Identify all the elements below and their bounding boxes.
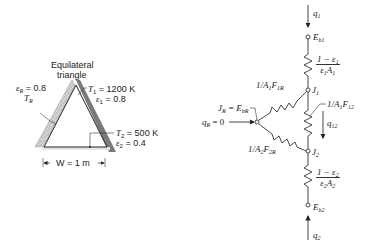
resistor-surface-1 (304, 54, 312, 76)
label-J2: J2 (312, 147, 319, 157)
label-J1: J1 (312, 85, 319, 95)
label-R1: 1 − ε1 ε1A1 (316, 54, 340, 75)
node-Eb2 (306, 203, 310, 207)
resistor-F2R (272, 134, 297, 147)
label-R12: 1/A1F12 (327, 99, 354, 109)
node-JR (255, 120, 259, 124)
label-R2R: 1/A2F2R (248, 144, 276, 154)
label-eps2: ε2 = 0.4 (116, 138, 146, 148)
label-JR: JR = EbR (218, 103, 248, 113)
label-R1R: 1/A1F1R (256, 80, 284, 90)
node-Eb1 (306, 35, 310, 39)
label-q1: q1 (313, 8, 321, 18)
resistor-surface-2 (304, 165, 312, 187)
label-Eb1: Eb1 (313, 32, 325, 42)
label-q2: q2 (313, 230, 321, 240)
label-R2: 1 − ε2 ε2A2 (316, 167, 340, 188)
label-eps1: ε1 = 0.8 (96, 94, 126, 104)
label-equilateral: Equilateral (51, 60, 94, 70)
label-T2: T2 = 500 K (116, 128, 158, 138)
resistor-F1R (270, 101, 297, 113)
label-T1: T1 = 1200 K (88, 84, 135, 94)
label-qR: qR = 0 (202, 117, 224, 127)
label-triangle: triangle (57, 70, 87, 80)
node-J1 (306, 88, 310, 92)
label-T-R: TR (24, 93, 33, 103)
label-Eb2: Eb2 (313, 202, 325, 212)
radiation-network (229, 5, 326, 240)
label-q12: q12 (327, 118, 338, 128)
resistor-F12 (304, 110, 312, 136)
node-J2 (306, 149, 310, 153)
label-eps-R: εR = 0.8 (16, 83, 46, 93)
label-width: W = 1 m (55, 158, 91, 168)
